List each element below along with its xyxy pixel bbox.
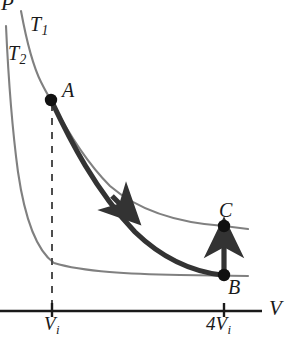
state-label-c: C — [219, 200, 232, 220]
isotherm-t2-curve — [6, 26, 248, 276]
state-label-a: A — [62, 80, 74, 100]
pv-diagram-canvas — [0, 0, 290, 341]
process-curve-a-to-b — [52, 102, 222, 275]
state-point-c — [218, 220, 230, 232]
state-label-b: B — [228, 277, 240, 297]
x-tick-label-4vi: 4Vi — [206, 314, 231, 337]
isotherm-t1-curve — [21, 11, 248, 229]
curve-label-t1: T1 — [30, 14, 48, 38]
axis-label-pressure: P — [1, 0, 14, 14]
curve-label-t2: T2 — [8, 43, 26, 67]
state-point-a — [45, 94, 57, 106]
x-tick-label-vi: Vi — [44, 314, 60, 337]
axis-label-volume: V — [269, 298, 282, 319]
pv-diagram: P T1 T2 A C B V Vi 4Vi — [0, 0, 290, 341]
